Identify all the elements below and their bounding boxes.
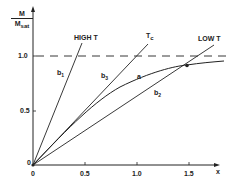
y-axis-label: M Msat xyxy=(11,10,33,29)
x-tick-label-0: 0 xyxy=(31,170,35,177)
label-b3: b3 xyxy=(101,72,108,81)
label-b1: b1 xyxy=(57,69,64,78)
label-tc: Tc xyxy=(146,32,154,41)
label-a: a xyxy=(137,73,141,80)
origin-point xyxy=(31,163,34,166)
label-b2-sub: 2 xyxy=(158,92,161,98)
x-tick-label-10: 1.0 xyxy=(132,170,142,177)
label-b1-sub: 1 xyxy=(61,72,64,78)
line-b1-high-t xyxy=(33,43,82,165)
label-high-t: HIGH T xyxy=(74,34,98,41)
intersection-point xyxy=(185,64,189,68)
y-tick-label-0: 0 xyxy=(27,159,31,166)
line-b2-low-t xyxy=(33,45,214,165)
y-tick-label-10: 1.0 xyxy=(18,52,28,59)
magnetization-chart xyxy=(0,0,236,185)
y-tick-label-05: 0.5 xyxy=(20,107,30,114)
x-tick-label-05: 0.5 xyxy=(80,170,90,177)
label-tc-sub: c xyxy=(150,35,153,41)
y-axis-label-denominator: Msat xyxy=(11,19,33,29)
label-b3-sub: 3 xyxy=(105,75,108,81)
y-axis-label-numerator: M xyxy=(11,10,33,19)
x-tick-label-15: 1.5 xyxy=(184,170,194,177)
x-axis-arrow-icon xyxy=(214,163,220,167)
label-low-t: LOW T xyxy=(198,35,221,42)
x-axis-label: x xyxy=(216,168,220,175)
label-b2: b2 xyxy=(154,89,161,98)
y-label-den-sub: sat xyxy=(21,23,30,29)
